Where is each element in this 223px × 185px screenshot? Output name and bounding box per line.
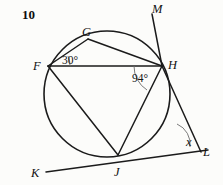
point-label-M: M <box>152 3 162 16</box>
segment-FJ <box>48 66 118 155</box>
point-label-L: L <box>203 146 210 159</box>
point-label-F: F <box>33 60 41 73</box>
point-label-H: H <box>168 59 177 72</box>
angle-label-94-degrees: 94° <box>132 73 148 85</box>
point-label-G: G <box>82 26 91 39</box>
ray-HM <box>152 14 162 66</box>
main-circle <box>44 31 170 157</box>
point-label-K: K <box>31 167 39 180</box>
geometry-canvas <box>0 0 223 185</box>
geometry-figure: 10 F G H M J K L 30° 94° x <box>0 0 223 185</box>
angle-label-30-degrees: 30° <box>62 55 78 67</box>
point-label-J: J <box>114 166 120 179</box>
angle-label-x: x <box>186 136 192 149</box>
segment-GH <box>88 39 162 66</box>
